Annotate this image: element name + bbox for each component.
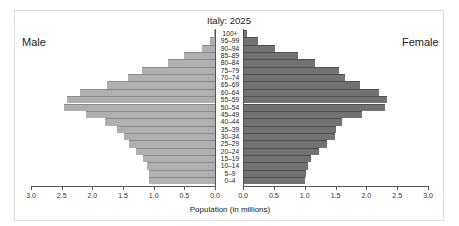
female-bar (244, 148, 320, 155)
x-tick (305, 186, 306, 190)
x-tick-label: 1.0 (144, 192, 164, 199)
male-bar (105, 118, 215, 125)
age-group-label: 60–64 (218, 89, 242, 96)
x-tick-label: 2.5 (387, 192, 407, 199)
x-tick-label: 3.0 (21, 192, 41, 199)
female-bar (244, 59, 316, 66)
x-tick-label: 2.0 (82, 192, 102, 199)
male-bar (128, 74, 215, 81)
female-bar (244, 96, 387, 103)
age-group-label: 15–19 (218, 155, 242, 162)
male-bar (107, 81, 215, 88)
x-tick (215, 186, 216, 190)
male-bar (149, 177, 215, 184)
female-bar (244, 89, 379, 96)
age-group-label: 95–99 (218, 37, 242, 44)
x-tick-label: 1.5 (113, 192, 133, 199)
x-tick (31, 186, 32, 190)
male-bar (142, 67, 215, 74)
x-tick (62, 186, 63, 190)
x-tick-label: 0.5 (174, 192, 194, 199)
male-bar (129, 140, 215, 147)
male-bar (202, 45, 215, 52)
x-axis-label: Population (in millions) (170, 205, 290, 214)
age-group-label: 75–79 (218, 67, 242, 74)
female-bar (244, 118, 342, 125)
age-group-label: 50–54 (218, 104, 242, 111)
age-group-label: 45–49 (218, 111, 242, 118)
female-bar (244, 104, 385, 111)
x-tick-label: 1.0 (295, 192, 315, 199)
age-group-label: 90–94 (218, 45, 242, 52)
x-tick (92, 186, 93, 190)
x-tick-label: 3.0 (418, 192, 438, 199)
age-group-label: 70–74 (218, 74, 242, 81)
age-group-label: 25–29 (218, 140, 242, 147)
age-group-label: 65–69 (218, 81, 242, 88)
chart-title: Italy: 2025 (197, 15, 261, 26)
male-bar (143, 155, 215, 162)
male-bar (117, 126, 215, 133)
male-bar (168, 59, 215, 66)
x-tick (366, 186, 367, 190)
age-group-label: 10–14 (218, 162, 242, 169)
female-bar (244, 37, 259, 44)
x-tick (243, 186, 244, 190)
x-tick (154, 186, 155, 190)
x-tick-label: 0.0 (205, 192, 225, 199)
male-bar (86, 111, 215, 118)
male-bar (149, 170, 215, 177)
female-bar (244, 81, 361, 88)
age-group-label: 0–4 (218, 177, 242, 184)
female-bar (244, 177, 306, 184)
female-bar (244, 52, 299, 59)
age-group-label: 5–9 (218, 170, 242, 177)
female-bar (244, 45, 276, 52)
female-bar (244, 74, 345, 81)
female-bar (244, 30, 248, 37)
x-tick-label: 0.0 (233, 192, 253, 199)
male-y-axis (215, 29, 216, 186)
x-tick (184, 186, 185, 190)
male-bar (124, 133, 215, 140)
male-bar (64, 104, 215, 111)
x-tick-label: 1.5 (326, 192, 346, 199)
female-bar (244, 170, 307, 177)
female-bar (244, 126, 337, 133)
age-group-label: 85–89 (218, 52, 242, 59)
age-group-label: 55–59 (218, 96, 242, 103)
age-group-label: 80–84 (218, 59, 242, 66)
female-label: Female (402, 36, 439, 48)
female-bar (244, 162, 309, 169)
x-tick (123, 186, 124, 190)
x-tick (397, 186, 398, 190)
female-bar (244, 140, 327, 147)
x-tick-label: 2.5 (52, 192, 72, 199)
age-group-label: 100+ (218, 30, 242, 37)
female-bar (244, 111, 363, 118)
female-bar (244, 155, 312, 162)
x-tick (428, 186, 429, 190)
x-tick (274, 186, 275, 190)
female-y-axis (243, 29, 244, 186)
male-bar (184, 52, 215, 59)
age-group-label: 35–39 (218, 126, 242, 133)
male-bar (147, 162, 215, 169)
female-bar (244, 133, 336, 140)
x-tick (336, 186, 337, 190)
age-group-label: 20–24 (218, 148, 242, 155)
male-label: Male (22, 36, 46, 48)
male-bar (67, 96, 215, 103)
x-tick-label: 2.0 (356, 192, 376, 199)
age-group-label: 30–34 (218, 133, 242, 140)
x-tick-label: 0.5 (264, 192, 284, 199)
female-bar (244, 67, 340, 74)
age-group-label: 40–44 (218, 118, 242, 125)
male-bar (80, 89, 215, 96)
male-bar (136, 148, 215, 155)
